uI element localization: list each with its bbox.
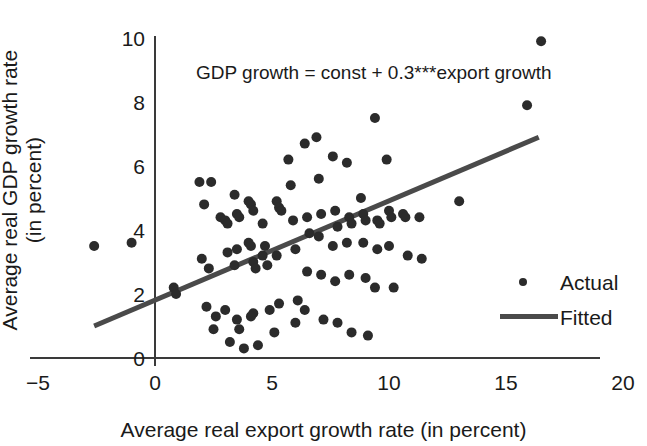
scatter-point [400, 212, 410, 222]
scatter-point [300, 139, 310, 149]
scatter-point [330, 276, 340, 286]
scatter-point [248, 206, 258, 216]
scatter-point [283, 155, 293, 165]
x-tick-label-10: 10 [377, 372, 400, 393]
scatter-point [274, 299, 284, 309]
scatter-point [290, 244, 300, 254]
y-tick-label-8: 8 [105, 92, 145, 113]
scatter-point [311, 132, 321, 142]
scatter-point [347, 327, 357, 337]
scatter-point [211, 311, 221, 321]
scatter-point [358, 238, 368, 248]
scatter-point [258, 251, 268, 261]
fitted-line [94, 137, 539, 326]
scatter-point [89, 241, 99, 251]
scatter-point [288, 215, 298, 225]
scatter-point [232, 315, 242, 325]
scatter-point [230, 260, 240, 270]
scatter-point [347, 219, 357, 229]
scatter-point [316, 209, 326, 219]
scatter-point [253, 340, 263, 350]
x-tick-label-0: 0 [149, 372, 161, 393]
scatter-point [384, 241, 394, 251]
scatter-point [260, 241, 270, 251]
scatter-point [302, 267, 312, 277]
scatter-point [230, 190, 240, 200]
scatter-point [234, 212, 244, 222]
scatter-point [232, 244, 242, 254]
scatter-point [197, 254, 207, 264]
scatter-point [223, 219, 233, 229]
scatter-point [171, 289, 181, 299]
scatter-point [328, 241, 338, 251]
legend-actual-marker-icon [519, 278, 527, 286]
scatter-point [276, 206, 286, 216]
scatter-point [414, 212, 424, 222]
scatter-point [333, 318, 343, 328]
y-axis-title: Average real GDP growth rate (in percent… [0, 2, 46, 378]
scatter-point [225, 337, 235, 347]
scatter-point [265, 305, 275, 315]
x-tick-label-5: 5 [266, 372, 278, 393]
scatter-point [536, 36, 546, 46]
fitted-regression-line [94, 137, 539, 326]
scatter-point [314, 174, 324, 184]
scatter-point [199, 199, 209, 209]
y-tick-label-6: 6 [105, 156, 145, 177]
scatter-point [370, 283, 380, 293]
scatter-point [522, 100, 532, 110]
scatter-point [258, 219, 268, 229]
scatter-point [342, 238, 352, 248]
scatter-point [333, 222, 343, 232]
scatter-point [389, 283, 399, 293]
scatter-point [293, 295, 303, 305]
scatter-point [262, 260, 272, 270]
scatter-point [330, 206, 340, 216]
scatter-point [290, 318, 300, 328]
scatter-point [361, 273, 371, 283]
legend-actual-label: Actual [560, 271, 618, 295]
scatter-point [223, 247, 233, 257]
scatter-point [204, 263, 214, 273]
scatter-point [239, 343, 249, 353]
scatter-point [220, 305, 230, 315]
scatter-point [372, 244, 382, 254]
scatter-point [302, 212, 312, 222]
scatter-point [386, 212, 396, 222]
legend-fitted-line-icon [500, 314, 558, 319]
scatter-point [417, 254, 427, 264]
y-tick-label-4: 4 [105, 220, 145, 241]
scatter-point [382, 155, 392, 165]
scatter-point [344, 270, 354, 280]
scatter-point [454, 196, 464, 206]
scatter-point [300, 305, 310, 315]
scatter-point [206, 177, 216, 187]
scatter-point [316, 270, 326, 280]
scatter-point [363, 331, 373, 341]
scatter-point [370, 113, 380, 123]
scatter-point [251, 263, 261, 273]
scatter-point [246, 241, 256, 251]
y-axis-title-line-2: (in percent) [22, 2, 46, 378]
scatter-point [361, 215, 371, 225]
scatter-point [272, 251, 282, 261]
regression-equation-annotation: GDP growth = const + 0.3***export growth [196, 62, 552, 84]
y-tick-label-0: 0 [105, 348, 145, 369]
y-tick-label-2: 2 [105, 284, 145, 305]
scatter-point [328, 151, 338, 161]
scatter-point [375, 219, 385, 229]
scatter-point [314, 231, 324, 241]
scatter-point [201, 302, 211, 312]
scatter-point [269, 327, 279, 337]
legend-fitted-label: Fitted [560, 306, 613, 330]
scatter-point [194, 177, 204, 187]
scatter-chart-figure: 10 8 6 4 2 0 −5 0 5 10 15 20 Average rea… [0, 0, 647, 446]
scatter-point [403, 251, 413, 261]
scatter-point [318, 315, 328, 325]
scatter-point [286, 180, 296, 190]
x-axis-title: Average real export growth rate (in perc… [0, 418, 647, 442]
scatter-point [342, 158, 352, 168]
y-tick-label-10: 10 [105, 28, 145, 49]
x-tick-label-20: 20 [611, 372, 634, 393]
scatter-point [234, 324, 244, 334]
